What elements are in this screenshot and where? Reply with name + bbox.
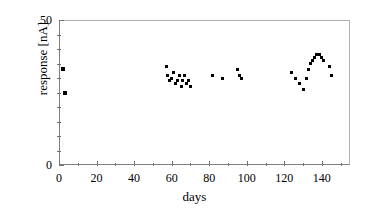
y-axis-minor-tick [57, 136, 61, 137]
x-axis-minor-tick [115, 163, 116, 166]
plot-frame [59, 20, 350, 165]
x-axis-minor-tick [266, 163, 267, 166]
y-axis-minor-tick [57, 49, 61, 50]
x-axis-tick-label: 60 [152, 172, 192, 184]
x-axis-tick [209, 161, 210, 166]
y-axis-minor-tick [57, 93, 61, 94]
y-axis-tick [59, 20, 64, 21]
x-axis-minor-tick [303, 163, 304, 166]
scatter-chart-figure: response [nA] days 020406080100120140050 [0, 0, 369, 218]
x-axis-tick-label: 120 [264, 172, 304, 184]
x-axis-minor-tick [153, 163, 154, 166]
x-axis-tick-label: 0 [39, 172, 79, 184]
y-axis-tick-label: 0 [12, 159, 52, 171]
y-axis-minor-tick [57, 107, 61, 108]
x-axis-tick [134, 161, 135, 166]
x-axis-minor-tick [190, 163, 191, 166]
x-axis-tick-label: 100 [227, 172, 267, 184]
x-axis-minor-tick [228, 163, 229, 166]
x-axis-tick [172, 161, 173, 166]
x-axis-label: days [59, 190, 330, 203]
x-axis-tick [97, 161, 98, 166]
x-axis-tick-label: 20 [77, 172, 117, 184]
x-axis-tick-label: 140 [302, 172, 342, 184]
x-axis-tick-label: 80 [189, 172, 229, 184]
x-axis-tick [247, 161, 248, 166]
y-axis-minor-tick [57, 35, 61, 36]
y-axis-minor-tick [57, 78, 61, 79]
x-axis-tick [284, 161, 285, 166]
y-axis-tick [59, 165, 64, 166]
y-axis-minor-tick [57, 151, 61, 152]
x-axis-minor-tick [78, 163, 79, 166]
y-axis-tick-label: 50 [12, 14, 52, 26]
y-axis-minor-tick [57, 122, 61, 123]
x-axis-minor-tick [341, 163, 342, 166]
x-axis-tick [322, 161, 323, 166]
x-axis-tick-label: 40 [114, 172, 154, 184]
y-axis-minor-tick [57, 64, 61, 65]
